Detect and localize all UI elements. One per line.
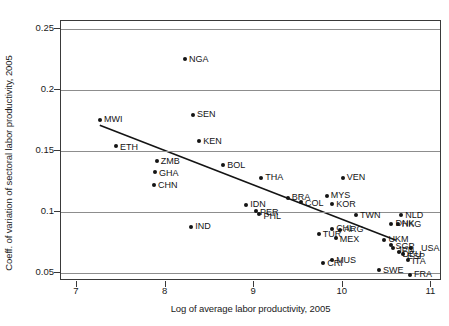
x-axis-title: Log of average labor productivity, 2005	[60, 303, 441, 314]
data-point	[155, 159, 159, 163]
y-tick-label: 0.1	[12, 206, 54, 216]
data-point	[325, 194, 329, 198]
data-point	[189, 225, 193, 229]
data-point	[286, 196, 290, 200]
data-point-label: KOR	[336, 200, 356, 209]
x-tick-label: 8	[150, 285, 180, 296]
y-tick-mark	[54, 211, 60, 212]
y-tick-mark	[54, 150, 60, 151]
gridline-horizontal	[61, 90, 440, 91]
plot-area: MWIETHZMBGHACHNNGASENKENBOLINDTHAIDNPERP…	[60, 20, 441, 280]
y-axis-title: Coeff. of variation of sectoral labor pr…	[0, 0, 18, 326]
data-point-label: MEX	[340, 235, 360, 244]
data-point-label: ETH	[120, 143, 138, 152]
data-point	[98, 118, 102, 122]
data-point	[408, 273, 412, 277]
data-point-label: NGA	[189, 55, 209, 64]
data-point-label: KEN	[203, 137, 222, 146]
data-point	[334, 236, 338, 240]
x-tick-label: 9	[238, 285, 268, 296]
y-tick-label: 0.15	[12, 145, 54, 155]
y-tick-label: 0.05	[12, 267, 54, 277]
gridline-horizontal	[61, 29, 440, 30]
data-point-label: GHA	[159, 169, 179, 178]
data-point	[396, 222, 400, 226]
gridline-horizontal	[61, 212, 440, 213]
y-tick-mark	[54, 28, 60, 29]
data-point-label: TWN	[360, 211, 381, 220]
data-point	[259, 176, 263, 180]
data-point	[114, 144, 118, 148]
data-point-label: BOL	[227, 161, 245, 170]
data-point-label: SEN	[197, 110, 216, 119]
data-point-label: VEN	[347, 173, 366, 182]
x-tick-label: 7	[61, 285, 91, 296]
y-tick-mark	[54, 272, 60, 273]
x-tick-label: 11	[415, 285, 445, 296]
data-point-label: ITA	[412, 257, 425, 266]
scatter-plot-figure: Coeff. of variation of sectoral labor pr…	[0, 0, 449, 326]
gridline-horizontal	[61, 151, 440, 152]
data-point-label: MUS	[336, 256, 356, 265]
data-point-label: TUR	[323, 230, 342, 239]
data-point-label: MWI	[104, 115, 123, 124]
data-point-label: PHL	[263, 212, 281, 221]
data-point	[299, 200, 303, 204]
y-tick-label: 0.2	[12, 84, 54, 94]
y-tick-label: 0.25	[12, 23, 54, 33]
data-point	[152, 183, 156, 187]
data-point-label: COL	[305, 199, 324, 208]
data-point	[397, 250, 401, 254]
data-point-label: THA	[265, 173, 283, 182]
data-point-label: ZMB	[161, 157, 180, 166]
data-point-label: CHN	[158, 181, 178, 190]
data-point-label: IND	[195, 222, 211, 231]
data-point-label: FRA	[414, 270, 432, 279]
x-tick-label: 10	[327, 285, 357, 296]
y-tick-mark	[54, 89, 60, 90]
data-point-label: ARG	[344, 225, 364, 234]
data-point-label: HKG	[402, 220, 422, 229]
data-point	[341, 176, 345, 180]
data-point	[191, 113, 195, 117]
data-point-label: SWE	[383, 266, 404, 275]
